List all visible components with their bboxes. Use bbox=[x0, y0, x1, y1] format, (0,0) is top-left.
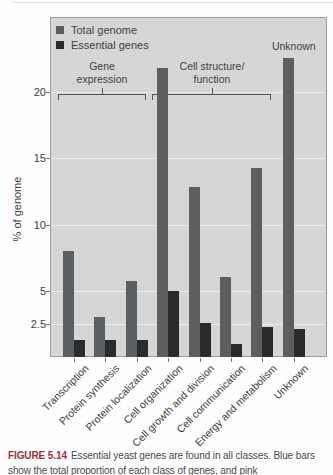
y-tick-mark bbox=[46, 291, 50, 292]
bar-total-genome bbox=[126, 281, 137, 357]
bar-total-genome bbox=[157, 68, 168, 357]
bar-total-genome bbox=[220, 277, 231, 357]
bar-essential-genes bbox=[294, 329, 305, 357]
figure-caption: FIGURE 5.14Essential yeast genes are fou… bbox=[8, 448, 329, 475]
bar-total-genome bbox=[251, 168, 262, 357]
group-bracket-line bbox=[58, 94, 146, 95]
x-tick-mark bbox=[262, 358, 263, 362]
y-tick-mark bbox=[46, 225, 50, 226]
bracket-end-tick bbox=[145, 94, 146, 100]
essential-genes-swatch-icon bbox=[56, 41, 64, 49]
bracket-label: Cell structure/ function bbox=[180, 60, 245, 86]
bar-total-genome bbox=[283, 58, 294, 357]
page-edge-line bbox=[12, 2, 333, 3]
bar-essential-genes bbox=[262, 327, 273, 357]
x-tick-mark bbox=[231, 358, 232, 362]
figure-number: FIGURE 5.14 bbox=[8, 450, 67, 461]
bar-annotation-unknown: Unknown bbox=[272, 40, 316, 52]
legend-item-essential-genes: Essential genes bbox=[56, 37, 149, 52]
bracket-end-tick bbox=[270, 94, 271, 100]
textbook-figure: % of genome Total genome Essential genes… bbox=[0, 0, 333, 475]
y-tick-label: 15 bbox=[10, 151, 46, 165]
x-tick-mark bbox=[168, 358, 169, 362]
y-axis-title: % of genome bbox=[11, 164, 27, 254]
x-tick-mark bbox=[137, 358, 138, 362]
bar-total-genome bbox=[94, 317, 105, 357]
bracket-center-tick bbox=[102, 88, 103, 94]
bar-total-genome bbox=[63, 251, 74, 357]
legend-label-essential-genes: Essential genes bbox=[71, 39, 149, 51]
bar-essential-genes bbox=[137, 340, 148, 357]
bracket-label: Gene expression bbox=[77, 60, 128, 86]
y-tick-mark bbox=[46, 92, 50, 93]
x-tick-mark bbox=[105, 358, 106, 362]
x-tick-mark bbox=[74, 358, 75, 362]
bracket-end-tick bbox=[58, 94, 59, 100]
bracket-center-tick bbox=[212, 88, 213, 94]
bar-essential-genes bbox=[74, 340, 85, 357]
bar-essential-genes bbox=[168, 291, 179, 357]
legend-item-total-genome: Total genome bbox=[56, 22, 149, 37]
y-tick-label: 10 bbox=[10, 218, 46, 232]
legend-label-total-genome: Total genome bbox=[71, 24, 137, 36]
bracket-end-tick bbox=[152, 94, 153, 100]
x-tick-mark bbox=[200, 358, 201, 362]
y-tick-mark bbox=[46, 324, 50, 325]
legend: Total genome Essential genes bbox=[56, 22, 149, 52]
y-tick-label: 20 bbox=[10, 85, 46, 99]
bar-essential-genes bbox=[200, 323, 211, 357]
x-tick-mark bbox=[294, 358, 295, 362]
bar-essential-genes bbox=[105, 340, 116, 357]
total-genome-swatch-icon bbox=[56, 26, 64, 34]
y-tick-label: 2.5 bbox=[10, 317, 46, 331]
y-tick-label: 5 bbox=[10, 284, 46, 298]
bar-total-genome bbox=[189, 187, 200, 357]
group-bracket-line bbox=[152, 94, 271, 95]
bar-essential-genes bbox=[231, 344, 242, 357]
y-tick-mark bbox=[46, 158, 50, 159]
